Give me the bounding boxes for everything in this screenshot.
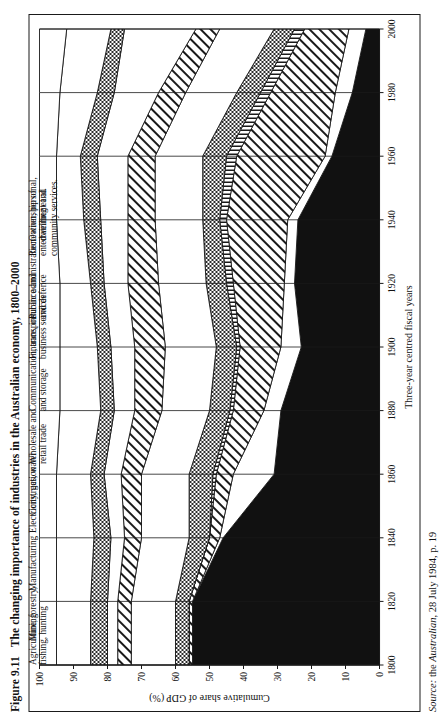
x-axis-tick-label: 1860 xyxy=(386,465,396,484)
y-axis-tick-label: 0 xyxy=(374,672,384,711)
source-rest: , 28 July 1984, p. 19 xyxy=(426,532,437,618)
x-axis-tick-label: 1920 xyxy=(386,274,396,293)
y-axis-title: Cumulative share of GDP (%) xyxy=(149,693,270,704)
x-axis-tick-label: 1980 xyxy=(386,83,396,102)
x-axis-tick-label: 1900 xyxy=(386,338,396,357)
legend-label: Communication, transport and storage xyxy=(27,313,48,411)
x-axis-tick-label: 2000 xyxy=(386,20,396,39)
x-axis-tick-label: 1880 xyxy=(386,401,396,420)
source-label: Source: xyxy=(426,680,437,712)
y-axis-tick-label: 40 xyxy=(238,672,248,711)
x-axis-tick-label: 1840 xyxy=(386,528,396,547)
plot-inner: 1009080706050403020100Cumulative share o… xyxy=(29,15,419,711)
y-axis-tick-label: 10 xyxy=(340,672,350,711)
x-axis-title: Three-year centred fiscal years xyxy=(402,285,413,409)
y-axis-tick-label: 20 xyxy=(306,672,316,711)
figure-number: Figure 9.11 xyxy=(8,656,20,712)
source-note: Source: the Australian, 28 July 1984, p.… xyxy=(426,532,437,712)
y-axis-tick-label: 50 xyxy=(204,672,214,711)
legend-label: Manufacturing xyxy=(27,536,37,591)
y-axis-tick-label: 80 xyxy=(102,672,112,711)
y-axis-tick-label: 100 xyxy=(34,672,44,711)
y-axis-tick-label: 60 xyxy=(170,672,180,711)
source-publication: Australian xyxy=(426,618,437,662)
stacked-area-chart xyxy=(29,15,419,711)
legend-label: Agriculture, forestry, fishing, hunting xyxy=(27,587,48,665)
figure-title: Figure 9.11The changing importance of in… xyxy=(8,262,20,713)
source-lead: the xyxy=(426,664,437,677)
x-axis-tick-label: 1820 xyxy=(386,592,396,611)
y-axis-tick-label: 70 xyxy=(136,672,146,711)
y-axis-tick-label: 90 xyxy=(68,672,78,711)
plot-frame: 1009080706050403020100Cumulative share o… xyxy=(28,14,420,712)
x-axis-tick-label: 1960 xyxy=(386,147,396,166)
x-axis-tick-label: 1940 xyxy=(386,210,396,229)
figure-title-text: The changing importance of industries in… xyxy=(8,262,20,648)
legend-label: Electricity, gas, water xyxy=(27,453,37,533)
figure-plate: Figure 9.11The changing importance of in… xyxy=(0,0,443,726)
x-axis-tick-label: 1800 xyxy=(386,656,396,675)
y-axis-tick-label: 30 xyxy=(272,672,282,711)
